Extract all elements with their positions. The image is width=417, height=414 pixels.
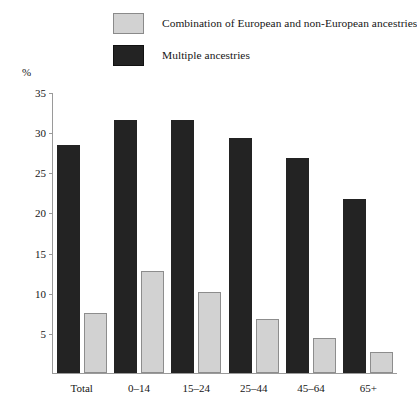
y-axis-tick-label: 35 [35,87,46,99]
y-axis-tick-mark [49,334,52,335]
bar-combination-ancestries [256,319,279,373]
bar-combination-ancestries [313,338,336,373]
y-axis-tick-mark [49,254,52,255]
x-axis-line [52,373,397,374]
y-axis-tick-mark [49,213,52,214]
bar-multiple-ancestries [57,145,80,373]
y-axis-tick-mark [49,173,52,174]
bar-multiple-ancestries [229,138,252,373]
bar-combination-ancestries [198,292,221,373]
bar-group: 25–44 [225,93,282,373]
x-axis-category-label: 45–64 [297,382,325,394]
y-axis-tick-label: 15 [35,248,46,260]
y-axis-tick-mark [49,294,52,295]
x-axis-category-label: 15–24 [183,382,211,394]
y-axis-unit-label: % [22,66,31,78]
bar-combination-ancestries [141,271,164,373]
y-axis-tick-label: 20 [35,207,46,219]
legend-item-multiple: Multiple ancestries [113,42,403,68]
y-axis-tick-mark [49,133,52,134]
legend-label-multiple: Multiple ancestries [162,49,250,61]
y-axis-tick-label: 5 [41,328,47,340]
bar-multiple-ancestries [343,199,366,373]
legend-swatch-multiple [113,45,144,66]
legend-label-combination: Combination of European and non-European… [162,17,417,29]
x-axis-category-label: 25–44 [240,382,268,394]
bar-group: 65+ [340,93,397,373]
bar-group: Total [53,93,110,373]
x-axis-category-label: 65+ [360,382,377,394]
legend-swatch-combination [113,13,144,34]
y-axis-tick-label: 30 [35,127,46,139]
y-axis-tick-label: 10 [35,288,46,300]
bar-combination-ancestries [370,352,393,373]
bar-group: 15–24 [168,93,225,373]
bar-groups: Total0–1415–2425–4445–6465+ [53,93,397,373]
bar-group: 45–64 [282,93,339,373]
x-axis-category-label: Total [70,382,92,394]
bar-multiple-ancestries [114,120,137,373]
y-axis-tick-mark [49,93,52,94]
plot-area: 3530252015105 Total0–1415–2425–4445–6465… [52,93,397,374]
bar-multiple-ancestries [286,158,309,373]
y-axis-tick-label: 25 [35,167,46,179]
chart-legend: Combination of European and non-European… [113,10,403,74]
bar-multiple-ancestries [171,120,194,373]
x-axis-category-label: 0–14 [128,382,150,394]
legend-item-combination: Combination of European and non-European… [113,10,403,36]
bar-combination-ancestries [84,313,107,373]
bar-group: 0–14 [110,93,167,373]
